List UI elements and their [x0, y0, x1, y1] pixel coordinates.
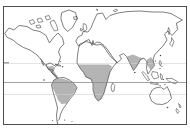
hispaniola-dot — [62, 66, 63, 67]
island-speck-dot — [72, 121, 73, 122]
bahamas-dot — [60, 61, 61, 62]
philippine-island-dot — [161, 66, 162, 67]
tasmania-dot — [167, 107, 169, 109]
philippine-island-dot — [159, 68, 160, 69]
falkland-dot — [64, 119, 65, 120]
world-map-figure — [0, 0, 190, 137]
island-speck-dot — [52, 120, 53, 121]
tierra-del-fuego-dot — [57, 122, 59, 124]
taiwan-dot — [160, 55, 161, 56]
moluccas-dot — [163, 79, 164, 80]
world-map-svg — [0, 0, 190, 137]
hainan-dot — [155, 60, 156, 61]
timor-dot — [164, 84, 165, 85]
lesser-sunda-dot — [159, 85, 160, 86]
galapagos-dot — [43, 79, 45, 81]
sri-lanka-dot — [134, 72, 136, 74]
